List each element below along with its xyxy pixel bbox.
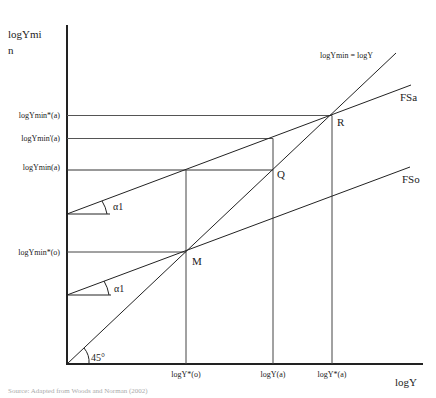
- y-tick-logymin-star-o: logYmin*(o): [18, 248, 60, 257]
- angle-arc-upper: [102, 201, 107, 214]
- y-axis-label: logYmi: [8, 28, 42, 40]
- figure-caption: Source: Adapted from Woods and Norman (2…: [8, 387, 148, 395]
- y-tick-logymin-star-a: logYmin*(a): [19, 111, 61, 120]
- y-axis-label-cont: n: [8, 44, 14, 56]
- angle-arc-45: [84, 348, 89, 364]
- x-tick-logy-a: logY(a): [261, 370, 286, 379]
- diagram: logYmi n α1 α1 45° logYmin*(a) logYmin'(…: [0, 0, 436, 398]
- fsa-label: FSa: [400, 91, 417, 103]
- fsa-line: [67, 85, 411, 214]
- alpha-lower-label: α1: [114, 283, 124, 294]
- y-tick-logymin-prime-a: logYmin'(a): [21, 134, 60, 143]
- x-tick-logy-star-o: logY*(o): [171, 370, 201, 379]
- point-m-label: M: [192, 255, 202, 267]
- alpha-upper-label: α1: [113, 201, 123, 212]
- x-tick-logy-star-a: logY*(a): [318, 370, 347, 379]
- point-q-label: Q: [277, 168, 285, 180]
- x-axis-label: logY: [395, 376, 417, 388]
- fso-line: [67, 167, 410, 295]
- angle-arc-lower: [104, 281, 109, 295]
- diagonal-label: logYmin = logY: [320, 51, 373, 60]
- y-tick-logymin-a: logYmin(a): [23, 163, 61, 172]
- angle-45-label: 45°: [91, 352, 105, 363]
- fso-label: FSo: [402, 173, 420, 185]
- point-r-label: R: [337, 116, 345, 128]
